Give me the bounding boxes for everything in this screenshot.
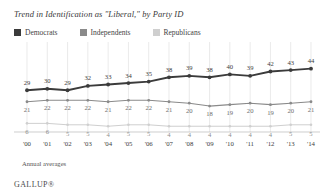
data-point-label: 20 <box>186 107 193 114</box>
data-point <box>289 68 293 72</box>
chart-gridlines <box>27 42 311 132</box>
data-point-label: 34 <box>125 72 132 79</box>
legend-label-democrats: Democrats <box>25 28 58 37</box>
data-point <box>188 125 191 128</box>
data-point-label: 40 <box>227 63 234 70</box>
x-axis-tick-label: '14 <box>307 140 316 147</box>
data-point <box>86 84 90 88</box>
x-axis-tick-label: '05 <box>124 140 133 147</box>
data-point-label: 21 <box>166 106 173 113</box>
data-point-label: 18 <box>206 110 213 117</box>
data-point <box>147 80 151 84</box>
data-point <box>46 99 49 102</box>
data-point <box>106 83 110 87</box>
data-point <box>127 124 130 127</box>
data-point <box>228 73 232 77</box>
data-point-label: 42 <box>267 60 274 67</box>
legend-item-republicans: Republicans <box>153 28 201 37</box>
data-point-label: 38 <box>166 66 173 73</box>
data-point <box>310 124 313 127</box>
data-point-label: 33 <box>105 73 112 80</box>
x-axis-tick-label: '11 <box>246 140 254 147</box>
data-point-label: 35 <box>145 70 152 77</box>
data-point <box>168 100 171 103</box>
line-chart-plot: 6655455444444552122222221222221201819201… <box>0 42 331 154</box>
data-point <box>45 87 49 91</box>
data-point-label: 5 <box>309 130 313 137</box>
x-axis-tick-label: '09 <box>206 140 215 147</box>
data-point <box>269 125 272 128</box>
data-point <box>107 100 110 103</box>
data-point <box>208 105 211 108</box>
data-point <box>127 81 131 85</box>
data-point-label: 20 <box>247 107 254 114</box>
x-axis-tick-label: '00 <box>23 140 32 147</box>
data-point <box>86 99 89 102</box>
data-point <box>228 103 231 106</box>
data-point <box>208 75 212 79</box>
x-axis-tick-label: '13 <box>287 140 296 147</box>
data-point <box>269 70 273 74</box>
data-point <box>147 99 150 102</box>
data-point-label: 22 <box>125 104 132 111</box>
data-point-label: 22 <box>85 104 92 111</box>
data-point-label: 39 <box>247 64 254 71</box>
data-point <box>107 125 110 128</box>
data-point-label: 5 <box>127 130 131 137</box>
data-point <box>309 67 313 71</box>
data-point <box>66 124 69 127</box>
data-point <box>66 99 69 102</box>
chart-legend: Democrats Independents Republicans <box>14 27 223 37</box>
legend-item-independents: Independents <box>80 28 131 37</box>
data-point <box>249 102 252 105</box>
data-point <box>168 125 171 128</box>
data-point-label: 19 <box>227 109 234 116</box>
chart-svg: 6655455444444552122222221222221201819201… <box>0 42 331 154</box>
data-point-label: 22 <box>44 104 51 111</box>
x-axis-tick-label: '10 <box>226 140 235 147</box>
data-point-label: 21 <box>308 106 315 113</box>
data-point-label: 43 <box>287 59 294 66</box>
gallup-brand-logo: GALLUP® <box>14 180 54 189</box>
data-point-label: 32 <box>85 74 92 81</box>
data-point-label: 5 <box>66 130 70 137</box>
x-axis-tick-label: '07 <box>165 140 174 147</box>
data-point-label: 5 <box>86 130 90 137</box>
data-point <box>289 102 292 105</box>
data-point-label: 29 <box>64 79 71 86</box>
data-point <box>25 88 29 92</box>
data-point-label: 39 <box>186 64 193 71</box>
data-point-label: 20 <box>287 107 294 114</box>
data-point <box>188 102 191 105</box>
data-point <box>66 88 70 92</box>
data-point <box>289 124 292 127</box>
data-point-label: 44 <box>308 57 315 64</box>
legend-label-independents: Independents <box>91 28 131 37</box>
legend-swatch-independents <box>80 29 87 36</box>
data-point <box>269 103 272 106</box>
data-point-label: 5 <box>147 130 151 137</box>
page-title: Trend in Identification as "Liberal," by… <box>14 9 183 19</box>
data-point-label: 5 <box>289 130 293 137</box>
data-point <box>87 124 90 127</box>
legend-item-democrats: Democrats <box>14 28 58 37</box>
data-point-label: 29 <box>24 79 31 86</box>
data-point <box>208 125 211 128</box>
data-point-label: 22 <box>64 104 71 111</box>
data-point <box>229 125 232 128</box>
data-point-label: 21 <box>105 106 112 113</box>
data-point <box>167 75 171 79</box>
x-axis-tick-label: '12 <box>266 140 275 147</box>
x-axis-tick-label: '06 <box>145 140 154 147</box>
data-point-label: 22 <box>145 104 152 111</box>
x-axis-tick-label: '08 <box>185 140 194 147</box>
data-point <box>249 125 252 128</box>
x-axis-tick-label: '02 <box>64 140 73 147</box>
data-point <box>26 100 29 103</box>
data-point <box>127 99 130 102</box>
x-axis-tick-label: '01 <box>43 140 51 147</box>
legend-swatch-democrats <box>14 29 21 36</box>
data-point <box>147 124 150 127</box>
chart-footnote: Annual averages <box>22 160 66 167</box>
gallup-chart-card: Trend in Identification as "Liberal," by… <box>0 0 331 196</box>
